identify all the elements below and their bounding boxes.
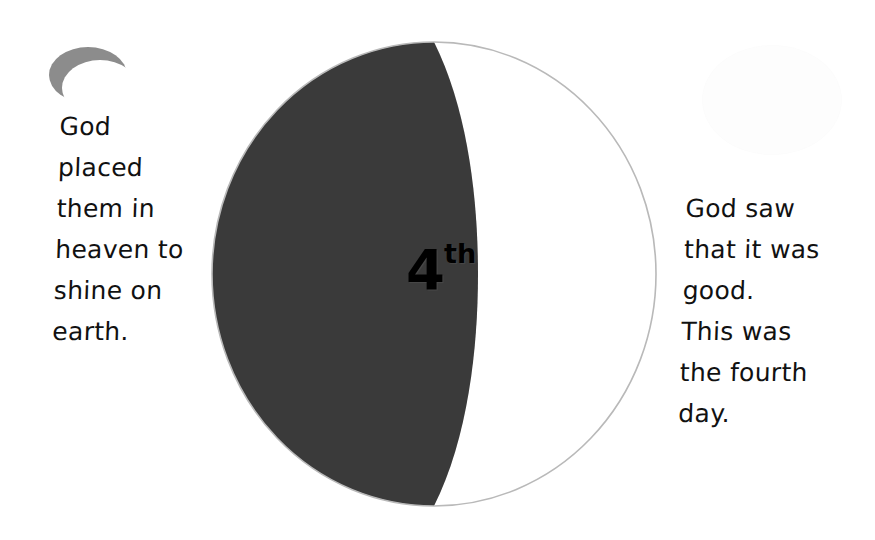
ordinal-number: 4 xyxy=(406,237,444,302)
caption-left: God placed them in heaven to shine on ea… xyxy=(52,106,231,352)
caption-right: God saw that it was good. This was the f… xyxy=(678,188,867,434)
ordinal-day-label: 4th xyxy=(406,240,476,298)
slide-canvas: 4th God placed them in heaven to shine o… xyxy=(0,0,875,540)
sun-circle-icon xyxy=(703,46,841,154)
crescent-moon-icon xyxy=(48,42,130,104)
ordinal-suffix: th xyxy=(444,238,476,269)
day-sphere: 4th xyxy=(210,40,658,508)
